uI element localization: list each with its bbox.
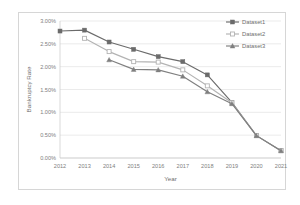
data-point-marker <box>83 28 87 32</box>
series-dataset3 <box>107 57 284 152</box>
data-point-marker <box>107 57 112 61</box>
x-tick-label: 2016 <box>152 163 164 169</box>
data-point-marker <box>156 60 160 64</box>
line-chart: 0.00%0.50%1.00%1.50%2.00%2.50%3.00% 2012… <box>0 0 300 205</box>
legend-item-dataset2[interactable]: Dataset2 <box>226 31 265 37</box>
y-tick-label: 1.00% <box>40 109 56 115</box>
x-tick-label: 2019 <box>226 163 238 169</box>
x-tick-label: 2014 <box>103 163 115 169</box>
data-point-marker <box>156 55 160 59</box>
data-point-marker <box>181 60 185 64</box>
legend-item-dataset1[interactable]: Dataset1 <box>226 19 265 25</box>
data-point-marker <box>58 29 62 33</box>
legend-label: Dataset1 <box>242 19 265 25</box>
x-axis-title: Year <box>164 175 177 182</box>
data-point-marker <box>231 20 235 24</box>
y-tick-label: 2.50% <box>40 41 56 47</box>
data-point-marker <box>231 32 235 36</box>
x-tick-label: 2013 <box>78 163 90 169</box>
y-tick-label: 3.00% <box>40 18 56 24</box>
y-axis-title: Bankruptcy Rate <box>25 66 32 112</box>
gridlines <box>60 21 281 158</box>
y-tick-label: 2.00% <box>40 64 56 70</box>
data-point-marker <box>107 50 111 54</box>
x-tick-label: 2021 <box>275 163 287 169</box>
x-tick-label: 2017 <box>177 163 189 169</box>
data-point-marker <box>205 73 209 77</box>
chart-container: 0.00%0.50%1.00%1.50%2.00%2.50%3.00% 2012… <box>0 0 300 205</box>
legend-label: Dataset2 <box>242 31 265 37</box>
data-point-marker <box>132 60 136 64</box>
y-axis-ticks: 0.00%0.50%1.00%1.50%2.00%2.50%3.00% <box>40 18 56 161</box>
data-point-marker <box>83 36 87 40</box>
x-tick-label: 2018 <box>201 163 213 169</box>
y-tick-label: 0.50% <box>40 132 56 138</box>
x-tick-label: 2020 <box>250 163 262 169</box>
legend-label: Dataset3 <box>242 43 265 49</box>
y-tick-label: 1.50% <box>40 87 56 93</box>
x-axis-ticks: 2012201320142015201620172018201920202021 <box>54 163 287 169</box>
series-line <box>85 38 281 150</box>
data-point-marker <box>132 47 136 51</box>
y-tick-label: 0.00% <box>40 155 56 161</box>
chart-legend: Dataset1Dataset2Dataset3 <box>226 19 265 49</box>
data-point-marker <box>107 40 111 44</box>
data-point-marker <box>181 68 185 72</box>
x-tick-label: 2012 <box>54 163 66 169</box>
data-point-marker <box>205 84 209 88</box>
x-tick-label: 2015 <box>127 163 139 169</box>
